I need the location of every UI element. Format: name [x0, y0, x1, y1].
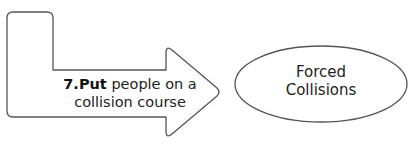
ellipse-label-line1: Forced	[250, 63, 392, 81]
step-number: 7.	[63, 76, 79, 92]
ellipse-label-line2: Collisions	[250, 81, 392, 99]
arrow-label-line1: 7.Put people on a	[40, 76, 220, 94]
bent-arrow-shape	[7, 12, 219, 136]
step-text-rest: people on a	[107, 76, 197, 92]
arrow-label: 7.Put people on a collision course	[40, 76, 220, 111]
arrow-label-line2: collision course	[40, 94, 220, 112]
step-bold-word: Put	[79, 76, 107, 92]
diagram-canvas: 7.Put people on a collision course Force…	[0, 0, 413, 146]
ellipse-label: Forced Collisions	[250, 63, 392, 100]
